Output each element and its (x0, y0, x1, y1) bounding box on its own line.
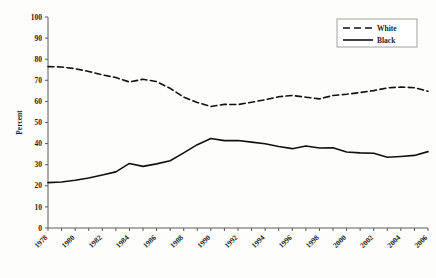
y-tick-label: 90 (35, 34, 43, 43)
x-tick-label: 1980 (60, 233, 77, 250)
y-axis-title: Percent (15, 110, 24, 135)
x-tick-label: 1978 (32, 233, 49, 250)
y-tick-label: 50 (35, 118, 43, 127)
y-tick-label: 40 (35, 139, 43, 148)
x-tick-label: 1986 (141, 233, 158, 250)
legend-label-black: Black (377, 36, 396, 45)
x-tick-label: 1998 (304, 233, 321, 250)
x-tick-label: 1996 (277, 233, 294, 250)
y-axis-tick-labels: 0102030405060708090100 (31, 13, 43, 233)
x-tick-label: 2002 (358, 233, 375, 250)
line-chart-figure: 0102030405060708090100 19781980198219841… (0, 0, 436, 278)
y-tick-label: 10 (35, 203, 43, 212)
y-tick-label: 60 (35, 97, 43, 106)
chart-canvas: 0102030405060708090100 19781980198219841… (0, 0, 436, 278)
series-line-white (48, 67, 428, 107)
x-tick-label: 2000 (331, 233, 348, 250)
chart-legend: WhiteBlack (337, 19, 417, 47)
y-tick-label: 0 (38, 224, 42, 233)
y-tick-label: 80 (35, 55, 43, 64)
y-tick-label: 70 (35, 76, 43, 85)
y-tick-label: 100 (31, 13, 43, 22)
x-tick-label: 1982 (87, 233, 104, 250)
x-tick-label: 1990 (195, 233, 212, 250)
x-tick-label: 2004 (385, 233, 402, 250)
x-tick-label: 2006 (412, 233, 429, 250)
y-tick-label: 30 (35, 160, 43, 169)
y-tick-label: 20 (35, 181, 43, 190)
series-line-black (48, 139, 428, 183)
legend-label-white: White (377, 24, 397, 33)
x-tick-label: 1988 (168, 233, 185, 250)
x-tick-label: 1992 (222, 233, 239, 250)
x-axis-tick-labels: 1978198019821984198619881990199219941996… (32, 233, 429, 250)
x-tick-label: 1984 (114, 233, 131, 250)
x-tick-label: 1994 (250, 233, 267, 250)
